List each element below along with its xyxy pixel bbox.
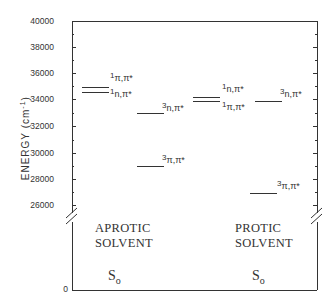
aprotic-singlet-n-pi-level	[82, 92, 109, 93]
aprotic-triplet-pi-pi-level	[137, 166, 164, 167]
aprotic-solvent-label: APROTIC SOLVENT	[95, 221, 153, 251]
aprotic-ground-state-label: So	[108, 268, 121, 286]
protic-singlet-pi-pi-label: 1π,π*	[222, 102, 245, 113]
aprotic-triplet-pi-pi-label: 3π,π*	[162, 155, 185, 166]
aprotic-line1: APROTIC	[95, 221, 153, 236]
plot-frame	[0, 0, 335, 308]
protic-triplet-n-pi-label: 3n,π*	[280, 89, 302, 100]
protic-ground-state-label: So	[252, 268, 265, 286]
protic-singlet-n-pi-label: 1n,π*	[222, 84, 244, 95]
protic-triplet-pi-pi-label: 3π,π*	[277, 181, 300, 192]
protic-triplet-n-pi-level	[255, 101, 282, 102]
protic-solvent-label: PROTIC SOLVENT	[235, 221, 293, 251]
protic-line1: PROTIC	[235, 221, 293, 236]
aprotic-triplet-n-pi-level	[137, 113, 164, 114]
protic-line2: SOLVENT	[235, 236, 293, 251]
protic-singlet-n-pi-level	[193, 97, 220, 98]
aprotic-triplet-n-pi-label: 3n,π*	[162, 103, 184, 114]
aprotic-singlet-n-pi-label: 1n,π*	[110, 89, 132, 100]
protic-singlet-pi-pi-level	[193, 101, 220, 102]
protic-triplet-pi-pi-level	[250, 193, 277, 194]
aprotic-line2: SOLVENT	[95, 236, 153, 251]
aprotic-singlet-pi-pi-label: 1π,π*	[110, 73, 133, 84]
aprotic-singlet-pi-pi-level	[82, 87, 109, 88]
